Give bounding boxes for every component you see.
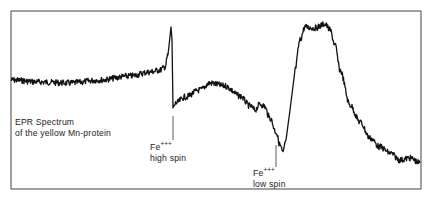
fe-high-charge: +++ <box>160 140 171 147</box>
fe-low-symbol: Fe <box>253 168 263 178</box>
spectrum-trace <box>11 22 420 164</box>
chart-title: EPR Spectrum of the yellow Mn-protein <box>15 117 111 139</box>
plot-frame <box>11 11 421 189</box>
chart-title-line-2: of the yellow Mn-protein <box>15 128 111 139</box>
fe-high-symbol: Fe <box>150 142 160 152</box>
fe-high-spin-text: high spin <box>150 153 186 164</box>
fe-low-spin-label: Fe+++ low spin <box>253 168 286 190</box>
fe-low-spin-text: low spin <box>253 179 286 190</box>
epr-spectrum-chart <box>0 0 431 199</box>
chart-title-line-1: EPR Spectrum <box>15 117 111 128</box>
fe-high-spin-label: Fe+++ high spin <box>150 142 186 164</box>
fe-low-charge: +++ <box>263 166 274 173</box>
